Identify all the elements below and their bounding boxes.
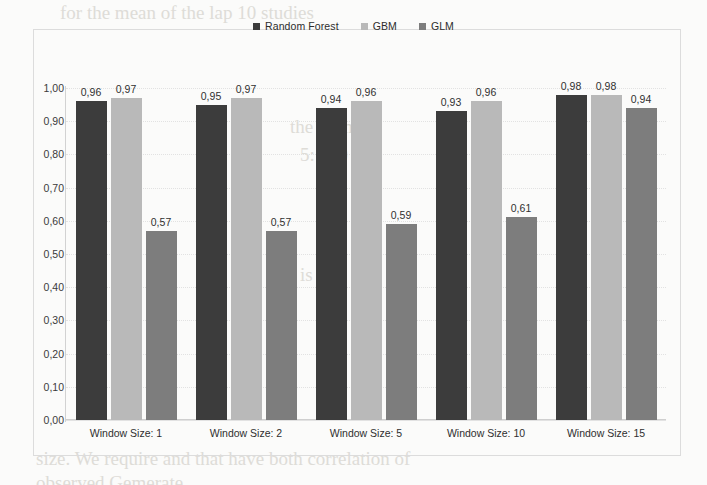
- bar-column: 0,97: [231, 88, 262, 420]
- bar-column: 0,94: [316, 88, 347, 420]
- bar-column: 0,96: [351, 88, 382, 420]
- bar-group-bars: 0,980,980,94: [546, 88, 666, 420]
- bar-gbm[interactable]: [591, 95, 622, 420]
- bar-column: 0,96: [76, 88, 107, 420]
- y-axis-tick-label: 0,80: [44, 148, 64, 160]
- legend-swatch-random-forest: [253, 23, 260, 30]
- x-axis-category-label: Window Size: 10: [426, 427, 546, 439]
- y-axis-tick-labels: 1,000,900,800,700,600,500,400,300,200,10…: [28, 88, 64, 420]
- x-axis-category-label: Window Size: 1: [66, 427, 186, 439]
- bar-value-label: 0,57: [151, 216, 171, 228]
- legend-label-glm: GLM: [431, 20, 454, 32]
- legend-item-glm[interactable]: GLM: [419, 20, 454, 32]
- bar-column: 0,57: [146, 88, 177, 420]
- y-axis-tick-label: 0,60: [44, 215, 64, 227]
- bar-glm[interactable]: [266, 231, 297, 420]
- bar-value-label: 0,96: [356, 86, 376, 98]
- bar-group: 0,930,960,61: [426, 88, 546, 420]
- y-axis-tick-label: 0,10: [44, 381, 64, 393]
- bar-column: 0,98: [556, 88, 587, 420]
- bar-gbm[interactable]: [111, 98, 142, 420]
- bar-random-forest[interactable]: [196, 105, 227, 420]
- gridline: [66, 420, 666, 421]
- bar-group: 0,950,970,57: [186, 88, 306, 420]
- legend-label-random-forest: Random Forest: [265, 20, 339, 32]
- bar-column: 0,98: [591, 88, 622, 420]
- bar-group-bars: 0,950,970,57: [186, 88, 306, 420]
- bar-glm[interactable]: [626, 108, 657, 420]
- bar-random-forest[interactable]: [76, 101, 107, 420]
- bar-value-label: 0,94: [321, 93, 341, 105]
- bar-group: 0,940,960,59: [306, 88, 426, 420]
- bar-value-label: 0,57: [271, 216, 291, 228]
- legend-swatch-gbm: [361, 23, 368, 30]
- y-axis-tick-label: 0,90: [44, 115, 64, 127]
- bar-random-forest[interactable]: [316, 108, 347, 420]
- bar-gbm[interactable]: [231, 98, 262, 420]
- bar-value-label: 0,93: [441, 96, 461, 108]
- bar-random-forest[interactable]: [556, 95, 587, 420]
- bar-group: 0,980,980,94: [546, 88, 666, 420]
- bar-value-label: 0,96: [476, 86, 496, 98]
- y-axis-tick-label: 0,20: [44, 348, 64, 360]
- bar-column: 0,97: [111, 88, 142, 420]
- bar-value-label: 0,97: [236, 83, 256, 95]
- legend-label-gbm: GBM: [373, 20, 397, 32]
- bar-group-bars: 0,960,970,57: [66, 88, 186, 420]
- bar-glm[interactable]: [146, 231, 177, 420]
- y-axis-tick-label: 0,50: [44, 248, 64, 260]
- bar-glm[interactable]: [506, 217, 537, 420]
- bar-value-label: 0,94: [631, 93, 651, 105]
- bar-column: 0,93: [436, 88, 467, 420]
- legend-swatch-glm: [419, 23, 426, 30]
- bar-group-bars: 0,940,960,59: [306, 88, 426, 420]
- bar-value-label: 0,59: [391, 209, 411, 221]
- bar-value-label: 0,97: [116, 83, 136, 95]
- bar-column: 0,95: [196, 88, 227, 420]
- y-axis-tick-label: 0,00: [44, 414, 64, 426]
- y-axis-tick-label: 0,30: [44, 314, 64, 326]
- bar-column: 0,59: [386, 88, 417, 420]
- legend-item-gbm[interactable]: GBM: [361, 20, 397, 32]
- bar-value-label: 0,96: [81, 86, 101, 98]
- chart-legend: Random Forest GBM GLM: [0, 20, 707, 32]
- y-axis-tick-label: 0,70: [44, 182, 64, 194]
- x-axis-category-label: Window Size: 5: [306, 427, 426, 439]
- bar-random-forest[interactable]: [436, 111, 467, 420]
- bar-column: 0,94: [626, 88, 657, 420]
- bar-value-label: 0,61: [511, 202, 531, 214]
- bar-value-label: 0,95: [201, 90, 221, 102]
- legend-item-random-forest[interactable]: Random Forest: [253, 20, 339, 32]
- x-axis-category-label: Window Size: 2: [186, 427, 306, 439]
- bar-column: 0,96: [471, 88, 502, 420]
- y-axis-tick-label: 1,00: [44, 82, 64, 94]
- bar-gbm[interactable]: [471, 101, 502, 420]
- bar-column: 0,61: [506, 88, 537, 420]
- x-axis-category-labels: Window Size: 1Window Size: 2Window Size:…: [66, 427, 666, 439]
- bar-group: 0,960,970,57: [66, 88, 186, 420]
- bar-gbm[interactable]: [351, 101, 382, 420]
- chart-bar-groups: 0,960,970,570,950,970,570,940,960,590,93…: [66, 88, 666, 420]
- bar-value-label: 0,98: [561, 80, 581, 92]
- bar-group-bars: 0,930,960,61: [426, 88, 546, 420]
- bar-value-label: 0,98: [596, 80, 616, 92]
- y-axis-tick-label: 0,40: [44, 281, 64, 293]
- x-axis-category-label: Window Size: 15: [546, 427, 666, 439]
- bar-column: 0,57: [266, 88, 297, 420]
- bar-glm[interactable]: [386, 224, 417, 420]
